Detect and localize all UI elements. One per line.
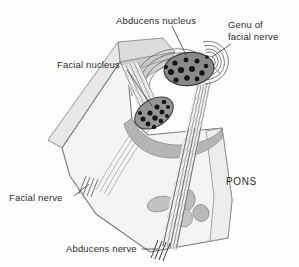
label-facial-nerve: Facial nerve [9,192,63,203]
label-facial-nucleus: Facial nucleus [57,59,120,70]
label-genu-line2: facial nerve [228,31,278,42]
label-genu-line1: Genu of [228,19,263,30]
label-pons: PONS [226,176,257,187]
anatomical-figure: Abducens nucleus Genu of facial nerve Fa… [0,0,299,267]
label-abducens-nucleus: Abducens nucleus [116,15,196,26]
label-abducens-nerve: Abducens nerve [66,243,137,254]
